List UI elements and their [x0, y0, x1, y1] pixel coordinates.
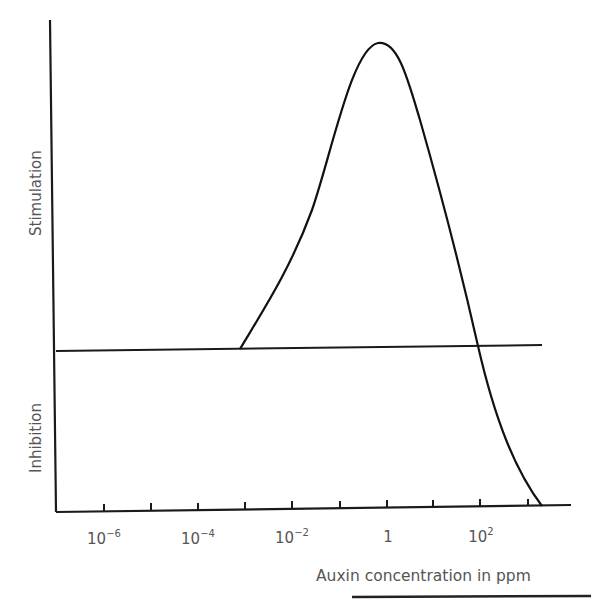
y-axis: [50, 20, 56, 512]
bottom-rule: [352, 596, 591, 597]
x-tick-label-1e2: 102: [468, 526, 493, 546]
response-curve: [240, 43, 542, 506]
x-tick-labels: 10−6 10−4 10−2 1 102: [87, 526, 494, 548]
y-label-stimulation: Stimulation: [27, 150, 45, 236]
x-tick-label-1: 1: [383, 528, 393, 546]
x-tick-label-1e-6: 10−6: [87, 528, 121, 548]
x-axis-title: Auxin concentration in ppm: [316, 567, 531, 585]
zero-baseline: [56, 345, 542, 351]
auxin-response-chart: 10−6 10−4 10−2 1 102 Stimulation Inhibit…: [0, 0, 591, 599]
x-tick-label-1e-4: 10−4: [181, 528, 215, 548]
x-axis: [56, 505, 571, 512]
y-label-inhibition: Inhibition: [27, 403, 45, 473]
x-tick-label-1e-2: 10−2: [275, 527, 309, 547]
